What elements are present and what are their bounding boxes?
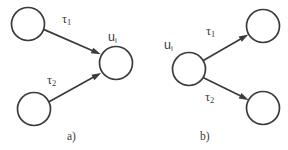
edge-a-tau1-label: τ1 xyxy=(62,12,71,27)
node-b-target-1 xyxy=(247,10,280,43)
node-a-target-label-sub: i xyxy=(115,36,117,45)
edge-a-tau2-label: τ2 xyxy=(47,73,56,88)
edge-b-tau2-label-sub: 2 xyxy=(210,95,214,105)
node-b-target-2 xyxy=(247,92,280,125)
edge-b-tau1: τ1 xyxy=(203,24,248,61)
panel-b-caption: b) xyxy=(200,130,210,143)
edge-b-tau2-label: τ2 xyxy=(205,90,214,105)
panel-a: τ1 τ2 ui a) xyxy=(12,8,133,144)
edge-b-tau2: τ2 xyxy=(204,78,249,105)
node-b-source xyxy=(173,53,206,86)
panel-b-edges: τ1 τ2 xyxy=(203,24,248,105)
edge-b-tau1-label-sub: 1 xyxy=(211,29,215,39)
panel-a-nodes: ui xyxy=(12,8,133,126)
edge-a-tau1-arrowhead xyxy=(91,48,101,55)
panel-b: τ1 τ2 ui b) xyxy=(164,10,280,144)
edge-b-tau1-arrowhead xyxy=(239,34,249,41)
edge-a-tau2: τ2 xyxy=(47,73,101,102)
diagram-canvas: τ1 τ2 ui a) xyxy=(0,0,288,150)
panel-a-caption: a) xyxy=(67,130,76,143)
node-a-source-2 xyxy=(18,93,51,126)
node-a-target-label: ui xyxy=(108,30,117,45)
edge-b-tau1-line xyxy=(203,38,242,61)
edge-a-tau1-label-sub: 1 xyxy=(67,17,71,27)
node-a-target xyxy=(100,47,133,80)
panel-b-nodes: ui xyxy=(164,10,280,125)
panel-a-edges: τ1 τ2 xyxy=(44,12,102,102)
edge-a-tau2-arrowhead xyxy=(91,73,101,80)
edge-a-tau1: τ1 xyxy=(44,12,101,54)
edge-b-tau1-label: τ1 xyxy=(206,24,215,39)
edge-a-tau1-line xyxy=(44,29,95,51)
node-b-source-label: ui xyxy=(164,38,173,53)
edge-a-tau2-label-sub: 2 xyxy=(52,78,56,88)
node-b-source-label-main: u xyxy=(164,38,171,52)
node-a-target-label-main: u xyxy=(108,30,115,44)
node-b-source-label-sub: i xyxy=(171,44,173,53)
edge-b-tau2-arrowhead xyxy=(239,93,249,100)
node-a-source-1 xyxy=(12,8,45,41)
figure-container: τ1 τ2 ui a) xyxy=(0,0,288,150)
